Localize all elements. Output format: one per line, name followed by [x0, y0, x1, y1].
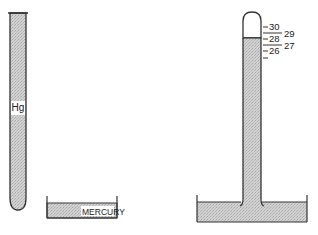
scale-label-28: 28 [269, 33, 280, 44]
scale-label-27: 27 [284, 40, 295, 51]
mercury-label: MERCURY [82, 207, 125, 217]
barometer-diagram: Hg MERCURY [0, 0, 318, 235]
barometer: 30 28 26 29 27 [197, 12, 307, 222]
scale-label-30: 30 [269, 21, 280, 32]
scale-label-26: 26 [269, 45, 280, 56]
scale-label-29: 29 [284, 28, 295, 39]
mercury-column-right [243, 38, 261, 203]
hg-label: Hg [12, 102, 25, 113]
barometer-dish-mercury [197, 202, 307, 222]
vacuum-space [243, 12, 261, 38]
left-tube: Hg [8, 13, 28, 210]
mercury-dish: MERCURY [47, 196, 125, 218]
